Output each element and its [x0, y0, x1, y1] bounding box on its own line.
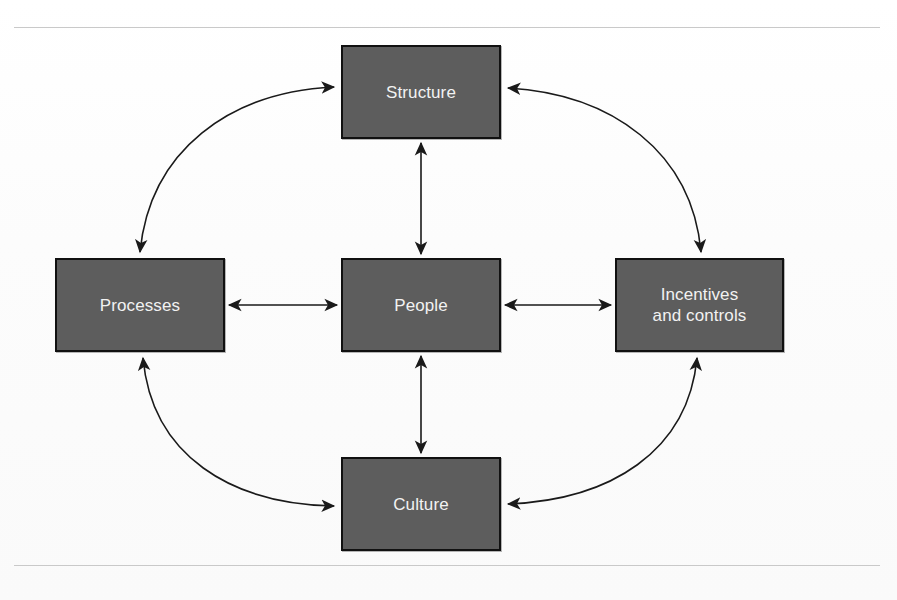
diagram-page: Structure Processes People Incentives an… [0, 0, 897, 600]
node-people-label: People [388, 295, 454, 316]
node-culture-label: Culture [387, 494, 455, 515]
connector-processes-structure [140, 87, 334, 252]
node-structure-label: Structure [380, 82, 462, 103]
node-processes[interactable]: Processes [55, 258, 225, 352]
connector-processes-culture [143, 358, 334, 506]
node-incentives[interactable]: Incentives and controls [615, 258, 784, 352]
node-structure[interactable]: Structure [341, 45, 501, 139]
node-incentives-label: Incentives and controls [647, 284, 753, 326]
node-culture[interactable]: Culture [341, 457, 501, 551]
connector-culture-incentives [508, 358, 697, 504]
node-people[interactable]: People [341, 258, 501, 352]
node-processes-label: Processes [94, 295, 186, 316]
connector-structure-incentives [508, 88, 701, 252]
